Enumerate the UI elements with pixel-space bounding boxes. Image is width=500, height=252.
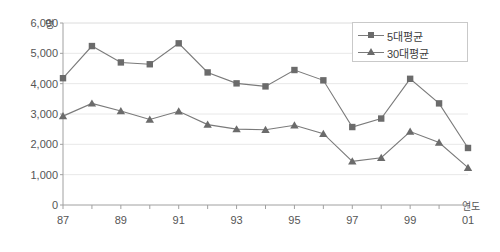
legend-marker-triangle-icon bbox=[358, 47, 384, 58]
data-point-marker[interactable] bbox=[262, 83, 268, 89]
chart-container: 명 연도 6,0005,0004,0003,0002,0001,0000 878… bbox=[0, 0, 500, 252]
data-point-marker[interactable] bbox=[407, 76, 413, 82]
data-point-marker[interactable] bbox=[60, 75, 66, 81]
data-point-marker[interactable] bbox=[465, 145, 471, 151]
legend-label-series-1: 30대평균 bbox=[387, 45, 429, 61]
data-point-marker[interactable] bbox=[406, 128, 414, 135]
data-point-marker[interactable] bbox=[320, 77, 326, 83]
data-point-marker[interactable] bbox=[89, 43, 95, 49]
data-point-marker[interactable] bbox=[378, 115, 384, 121]
chart-legend: 5대평균 30대평균 bbox=[352, 22, 468, 62]
data-point-marker[interactable] bbox=[349, 124, 355, 130]
data-point-marker[interactable] bbox=[436, 100, 442, 106]
data-point-marker[interactable] bbox=[176, 40, 182, 46]
data-point-marker[interactable] bbox=[118, 59, 124, 65]
data-point-marker[interactable] bbox=[233, 80, 239, 86]
data-point-marker[interactable] bbox=[290, 121, 298, 128]
data-point-marker[interactable] bbox=[88, 99, 96, 106]
data-point-marker[interactable] bbox=[147, 61, 153, 67]
data-point-marker[interactable] bbox=[435, 139, 443, 146]
data-point-marker[interactable] bbox=[59, 112, 67, 119]
legend-item-series-0[interactable]: 5대평균 bbox=[358, 27, 462, 44]
series-1 bbox=[59, 99, 472, 171]
data-point-marker[interactable] bbox=[203, 121, 211, 128]
legend-label-series-0: 5대평균 bbox=[387, 28, 423, 44]
data-point-marker[interactable] bbox=[175, 107, 183, 114]
legend-item-series-1[interactable]: 30대평균 bbox=[358, 44, 462, 61]
legend-marker-square-icon bbox=[358, 30, 384, 41]
data-point-marker[interactable] bbox=[291, 67, 297, 73]
data-point-marker[interactable] bbox=[204, 69, 210, 75]
